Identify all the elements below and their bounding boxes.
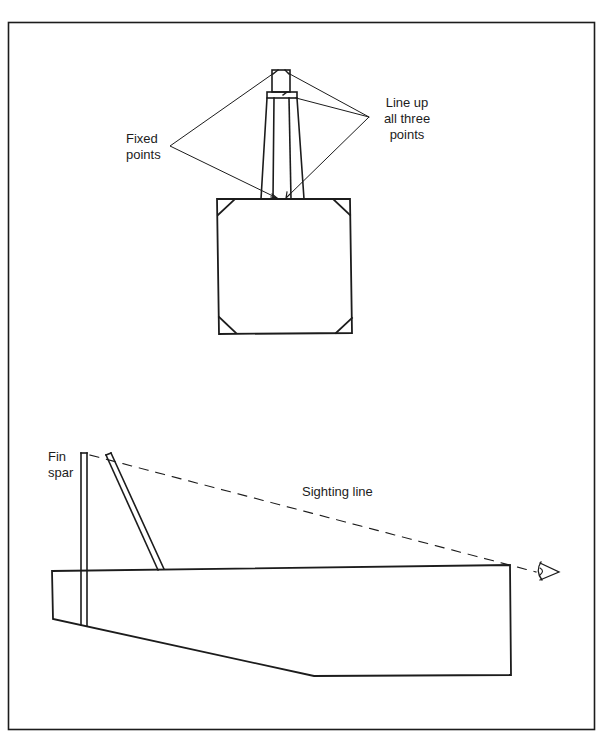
line-up-label-line1: Line up <box>372 95 442 111</box>
fixed-points-label-line1: Fixed <box>126 131 161 147</box>
fin-front-view <box>261 70 304 199</box>
fin-spar <box>81 453 87 626</box>
fuselage-cross-section <box>217 199 352 334</box>
sighting-line-label-text: Sighting line <box>302 484 373 499</box>
corner-brace-tl <box>218 200 234 215</box>
angled-fin-member <box>106 453 164 570</box>
line-up-label: Line up all three points <box>372 95 442 143</box>
fin-inner-right <box>289 98 291 199</box>
line-up-label-line3: points <box>372 127 442 143</box>
diagram-canvas <box>0 0 603 745</box>
fin-band <box>267 92 297 98</box>
fin-outer-left <box>261 98 267 199</box>
fuselage-outline <box>52 565 511 676</box>
fin-spar-label-line2: spar <box>48 465 73 481</box>
fin-inner-left <box>273 98 274 199</box>
eye-icon <box>538 562 559 580</box>
fin-spar-label-line1: Fin <box>48 449 73 465</box>
fixed-points-label: Fixed points <box>126 131 161 163</box>
corner-brace-bl <box>219 317 236 333</box>
corner-brace-br <box>336 318 352 333</box>
leader-fixed-points <box>170 73 277 198</box>
page-border <box>9 23 595 730</box>
sighting-line-label: Sighting line <box>302 484 373 500</box>
fuselage-box <box>217 199 352 334</box>
fuselage-side-view <box>52 565 511 676</box>
leader-line-up-points <box>286 73 369 198</box>
line-up-label-line2: all three <box>372 111 442 127</box>
fixed-points-label-line2: points <box>126 147 161 163</box>
corner-brace-tr <box>334 200 350 215</box>
fin-spar-label: Fin spar <box>48 449 73 481</box>
